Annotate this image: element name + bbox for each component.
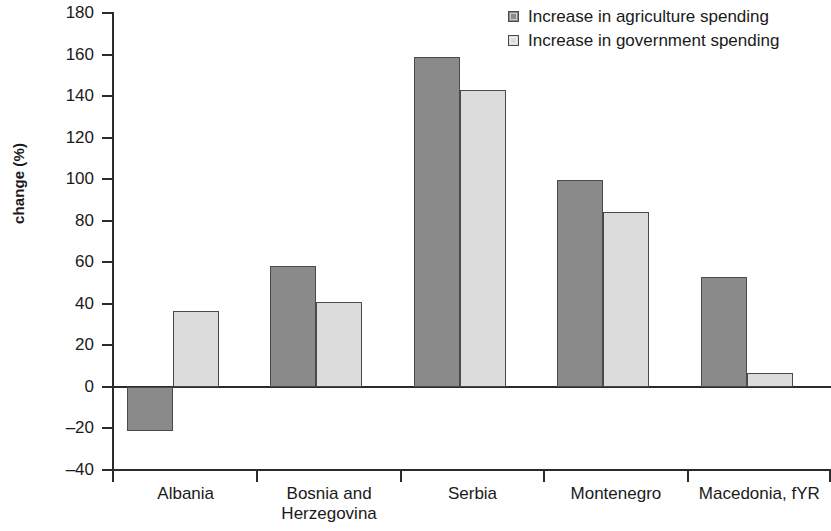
- x-axis-category-label: Serbia: [401, 484, 544, 504]
- bar: [603, 212, 649, 386]
- bar: [173, 311, 219, 387]
- y-axis-tick: [102, 12, 113, 14]
- legend-item: Increase in agriculture spending: [508, 7, 779, 26]
- y-axis-tick-label: –40: [66, 461, 94, 478]
- legend-item-label: Increase in agriculture spending: [528, 7, 769, 26]
- legend-swatch-icon: [508, 35, 519, 46]
- y-axis-tick: [102, 261, 113, 263]
- y-axis-tick: [102, 344, 113, 346]
- chart-legend: Increase in agriculture spendingIncrease…: [508, 7, 779, 55]
- y-axis-tick-label: 20: [75, 336, 94, 353]
- y-axis-tick: [102, 386, 113, 388]
- legend-swatch-icon: [508, 11, 519, 22]
- legend-item-label: Increase in government spending: [528, 31, 779, 50]
- y-axis-tick: [102, 178, 113, 180]
- bar: [127, 387, 173, 431]
- x-axis-category-label: Macedonia, fYR: [688, 484, 831, 504]
- x-axis-tick: [687, 470, 689, 482]
- x-axis-tick: [112, 470, 114, 482]
- x-axis-tick: [543, 470, 545, 482]
- x-axis-tick: [256, 470, 258, 482]
- bar: [270, 266, 316, 386]
- x-axis-baseline: [112, 469, 831, 471]
- y-axis-tick-label: 120: [66, 129, 94, 146]
- x-axis-tick: [400, 470, 402, 482]
- y-axis-tick: [102, 54, 113, 56]
- bar: [460, 90, 506, 387]
- bar: [701, 277, 747, 387]
- bar: [557, 180, 603, 387]
- x-axis-category-label: Montenegro: [544, 484, 687, 504]
- legend-item: Increase in government spending: [508, 31, 779, 50]
- bar-chart: change (%) –40–2002040608010012014016018…: [0, 0, 831, 531]
- y-axis-tick-label: 0: [85, 378, 94, 395]
- bar: [747, 373, 793, 387]
- y-axis-tick-label: 100: [66, 170, 94, 187]
- y-axis-tick-label: 40: [75, 295, 94, 312]
- y-axis-tick: [102, 220, 113, 222]
- x-axis-category-label: Bosnia and Herzegovina: [257, 484, 400, 524]
- y-axis-tick-label: 140: [66, 87, 94, 104]
- y-axis-title: change (%): [10, 124, 27, 244]
- y-axis-tick: [102, 427, 113, 429]
- y-axis-tick-label: 180: [66, 4, 94, 21]
- y-axis-tick: [102, 137, 113, 139]
- y-axis-tick-label: 60: [75, 253, 94, 270]
- y-axis-tick: [102, 303, 113, 305]
- y-axis-tick-label: 80: [75, 212, 94, 229]
- bar: [316, 302, 362, 387]
- bar: [414, 57, 460, 387]
- x-axis-category-label: Albania: [114, 484, 257, 504]
- y-axis-tick-label: –20: [66, 419, 94, 436]
- y-axis-line: [112, 12, 114, 471]
- y-axis-tick: [102, 95, 113, 97]
- y-axis-tick-label: 160: [66, 46, 94, 63]
